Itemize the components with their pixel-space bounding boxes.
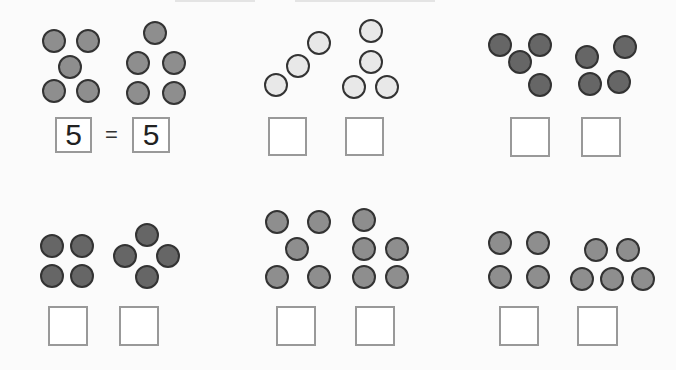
- left-answer-box[interactable]: [48, 306, 88, 346]
- counter-dot-icon: [508, 50, 532, 74]
- counter-dot-icon: [584, 238, 608, 262]
- counter-dot-icon: [570, 267, 594, 291]
- counter-dot-icon: [156, 244, 180, 268]
- counter-dot-icon: [359, 50, 383, 74]
- counter-dot-icon: [526, 265, 550, 289]
- top-edge-line: [175, 0, 255, 2]
- counter-dot-icon: [600, 267, 624, 291]
- counter-dot-icon: [135, 223, 159, 247]
- right-answer-box[interactable]: [581, 117, 621, 157]
- counter-dot-icon: [359, 19, 383, 43]
- counter-dot-icon: [40, 264, 64, 288]
- counter-dot-icon: [375, 75, 399, 99]
- counter-dot-icon: [528, 73, 552, 97]
- counter-dot-icon: [307, 31, 331, 55]
- counter-dot-icon: [607, 70, 631, 94]
- counter-dot-icon: [488, 231, 512, 255]
- counter-dot-icon: [385, 237, 409, 261]
- left-answer-box[interactable]: [276, 306, 316, 346]
- right-answer-box[interactable]: 5: [132, 117, 170, 153]
- counter-dot-icon: [352, 237, 376, 261]
- counter-dot-icon: [631, 267, 655, 291]
- counter-dot-icon: [526, 231, 550, 255]
- top-edge-line: [295, 0, 435, 2]
- counter-dot-icon: [488, 265, 512, 289]
- right-answer-box[interactable]: [119, 306, 159, 346]
- counter-dot-icon: [42, 79, 66, 103]
- counter-dot-icon: [613, 35, 637, 59]
- counter-dot-icon: [143, 21, 167, 45]
- counter-dot-icon: [578, 72, 602, 96]
- counter-dot-icon: [265, 265, 289, 289]
- counter-dot-icon: [352, 208, 376, 232]
- counter-dot-icon: [488, 33, 512, 57]
- counter-dot-icon: [342, 75, 366, 99]
- counter-dot-icon: [126, 51, 150, 75]
- right-answer-box[interactable]: [345, 117, 384, 156]
- counter-dot-icon: [265, 210, 289, 234]
- counter-dot-icon: [113, 244, 137, 268]
- equals-sign: =: [105, 122, 118, 148]
- counter-dot-icon: [528, 33, 552, 57]
- counter-dot-icon: [575, 45, 599, 69]
- counter-dot-icon: [616, 238, 640, 262]
- left-answer-box[interactable]: 5: [55, 117, 92, 153]
- counter-dot-icon: [385, 265, 409, 289]
- counter-dot-icon: [58, 55, 82, 79]
- counter-dot-icon: [264, 73, 288, 97]
- counter-dot-icon: [352, 265, 376, 289]
- counter-dot-icon: [307, 210, 331, 234]
- counter-dot-icon: [286, 54, 310, 78]
- right-answer-box[interactable]: [355, 306, 395, 346]
- counter-dot-icon: [76, 79, 100, 103]
- counter-dot-icon: [40, 234, 64, 258]
- right-answer-box[interactable]: [577, 306, 618, 346]
- counter-dot-icon: [76, 29, 100, 53]
- counter-dot-icon: [70, 264, 94, 288]
- counter-dot-icon: [135, 265, 159, 289]
- left-answer-box[interactable]: [510, 117, 550, 157]
- counter-dot-icon: [70, 234, 94, 258]
- left-answer-box[interactable]: [268, 117, 307, 156]
- left-answer-box[interactable]: [499, 306, 539, 346]
- counter-dot-icon: [162, 81, 186, 105]
- counter-dot-icon: [307, 265, 331, 289]
- counter-dot-icon: [285, 237, 309, 261]
- counter-dot-icon: [42, 29, 66, 53]
- counter-dot-icon: [126, 81, 150, 105]
- counter-dot-icon: [162, 51, 186, 75]
